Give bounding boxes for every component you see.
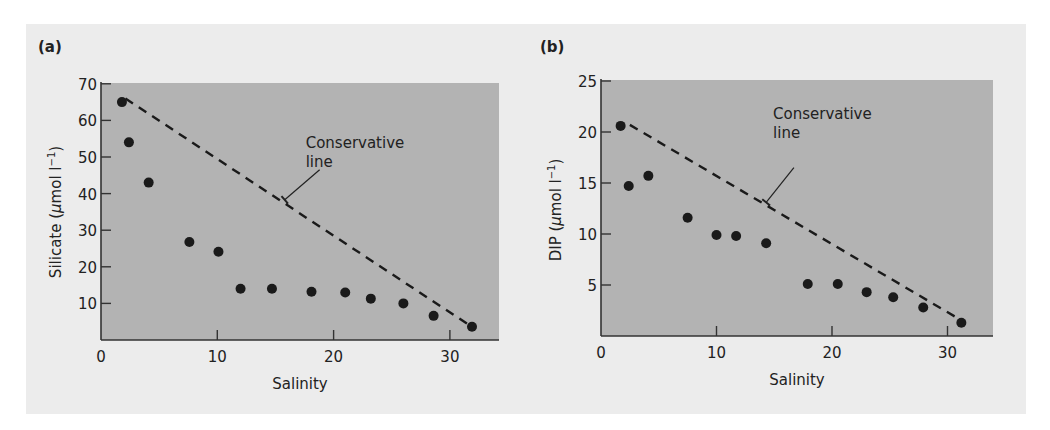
annotation-text: Conservative	[773, 105, 872, 123]
y-axis-title-a: Silicate (μmol l−1)	[46, 146, 65, 278]
data-point	[213, 247, 223, 257]
x-tick-label: 10	[707, 344, 726, 362]
chart-dip: (b) 5101520250102030 Conservativeline Sa…	[540, 38, 993, 389]
chart-silicate: (a) 102030405060700102030 Conservativeli…	[38, 38, 499, 393]
y-tick-label: 70	[78, 76, 97, 94]
data-point	[467, 322, 477, 332]
data-point	[307, 287, 317, 297]
y-tick-label: 10	[78, 295, 97, 313]
x-tick-label: 20	[324, 348, 343, 366]
y-tick-label: 20	[78, 259, 97, 277]
data-point	[803, 279, 813, 289]
x-axis-title-b: Salinity	[769, 371, 825, 389]
data-point	[236, 284, 246, 294]
data-point	[144, 178, 154, 188]
data-point	[888, 292, 898, 302]
panel-label-b: (b)	[540, 38, 564, 56]
x-axis-title-a: Salinity	[272, 375, 328, 393]
data-point	[429, 311, 439, 321]
plot-area-a	[101, 83, 499, 340]
data-point	[643, 171, 653, 181]
y-tick-label: 50	[78, 149, 97, 167]
data-point	[124, 137, 134, 147]
y-tick-label: 25	[578, 73, 597, 91]
y-tick-label: 15	[578, 175, 597, 193]
y-tick-label: 10	[578, 226, 597, 244]
figure-svg: (a) 102030405060700102030 Conservativeli…	[0, 0, 1050, 430]
y-tick-label: 20	[578, 124, 597, 142]
x-tick-label: 30	[938, 344, 957, 362]
annotation-text: line	[773, 124, 800, 142]
y-axis-title-b: DIP (μmol l−1)	[546, 159, 565, 262]
data-point	[918, 302, 928, 312]
data-point	[340, 287, 350, 297]
x-tick-label: 10	[208, 348, 227, 366]
x-tick-label: 30	[440, 348, 459, 366]
data-point	[761, 238, 771, 248]
y-tick-label: 30	[78, 222, 97, 240]
data-point	[267, 284, 277, 294]
annotation-text: Conservative	[306, 134, 405, 152]
x-tick-label: 0	[96, 348, 106, 366]
data-point	[624, 181, 634, 191]
panel-label-a: (a)	[38, 38, 62, 56]
annotation-text: line	[306, 153, 333, 171]
y-tick-label: 5	[587, 277, 597, 295]
data-point	[862, 287, 872, 297]
data-point	[712, 230, 722, 240]
x-tick-label: 0	[596, 344, 606, 362]
data-point	[398, 298, 408, 308]
x-tick-label: 20	[822, 344, 841, 362]
y-tick-label: 60	[78, 112, 97, 130]
data-point	[184, 237, 194, 247]
y-tick-label: 40	[78, 186, 97, 204]
data-point	[833, 279, 843, 289]
data-point	[731, 231, 741, 241]
data-point	[616, 121, 626, 131]
data-point	[366, 294, 376, 304]
data-point	[683, 213, 693, 223]
data-point	[956, 318, 966, 328]
